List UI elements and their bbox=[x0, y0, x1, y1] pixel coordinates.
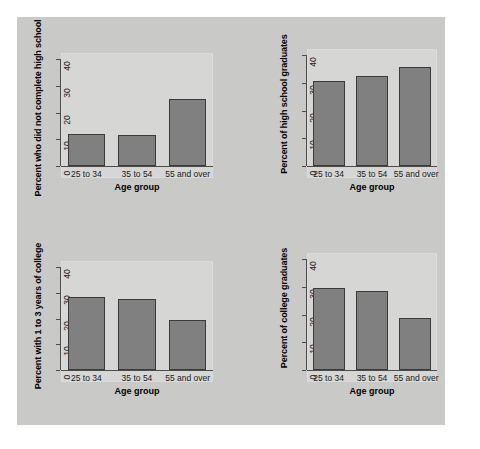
bar bbox=[399, 318, 431, 370]
chart-panel-some-college: Percent with 1 to 3 years of college 010… bbox=[17, 221, 231, 425]
y-axis-tick bbox=[302, 342, 306, 343]
y-axis-line bbox=[306, 55, 307, 166]
chart-panel-no-high-school: Percent who did not complete high school… bbox=[17, 17, 231, 221]
x-axis-tick-label: 55 and over bbox=[394, 373, 437, 383]
x-axis-tick-label: 25 to 34 bbox=[61, 373, 112, 383]
x-axis-title: Age group bbox=[61, 386, 213, 396]
bar bbox=[356, 76, 388, 166]
bar bbox=[68, 297, 105, 370]
x-axis-tick-label: 35 to 54 bbox=[350, 169, 393, 179]
y-axis-tick-label: 40 bbox=[62, 59, 72, 73]
y-axis-tick bbox=[56, 319, 60, 320]
x-axis-tick-label: 55 and over bbox=[394, 169, 437, 179]
y-axis-tick-label: 20 bbox=[62, 113, 72, 127]
y-axis-tick bbox=[302, 166, 306, 167]
bar bbox=[169, 99, 206, 166]
y-axis-tick-label: 30 bbox=[62, 86, 72, 100]
y-axis-tick bbox=[56, 59, 60, 60]
x-axis-tick-label: 35 to 54 bbox=[112, 373, 163, 383]
y-axis-tick bbox=[56, 344, 60, 345]
x-axis-tick-label: 55 and over bbox=[162, 169, 213, 179]
bar bbox=[118, 299, 155, 370]
y-axis-title: Percent of college graduates bbox=[277, 213, 291, 403]
y-axis-tick bbox=[302, 259, 306, 260]
x-axis-line bbox=[61, 166, 213, 167]
x-axis-tick-label: 35 to 54 bbox=[112, 169, 163, 179]
bar bbox=[313, 288, 345, 370]
y-axis-title: Percent of high school graduates bbox=[277, 9, 291, 199]
chart-panel-high-school-graduates: Percent of high school graduates 0102030… bbox=[231, 17, 445, 221]
y-axis-tick bbox=[302, 370, 306, 371]
y-axis-tick bbox=[56, 113, 60, 114]
y-axis-tick bbox=[56, 370, 60, 371]
y-axis-title: Percent who did not complete high school bbox=[31, 13, 45, 203]
x-axis-tick-label: 55 and over bbox=[162, 373, 213, 383]
bar bbox=[68, 134, 105, 166]
bar bbox=[313, 81, 345, 166]
bar bbox=[118, 135, 155, 166]
y-axis-tick bbox=[302, 111, 306, 112]
bar bbox=[399, 67, 431, 166]
x-axis-tick-label: 25 to 34 bbox=[307, 169, 350, 179]
y-axis-tick-label: 40 bbox=[62, 267, 72, 281]
y-axis-title: Percent with 1 to 3 years of college bbox=[31, 221, 45, 411]
y-axis-tick bbox=[56, 86, 60, 87]
y-axis-tick bbox=[302, 83, 306, 84]
x-axis-line bbox=[61, 370, 213, 371]
y-axis-tick bbox=[56, 267, 60, 268]
y-axis-tick-label: 40 bbox=[308, 55, 318, 69]
y-axis-line bbox=[306, 259, 307, 370]
figure-panel: Percent who did not complete high school… bbox=[17, 17, 445, 425]
bar bbox=[356, 291, 388, 370]
x-axis-line bbox=[307, 166, 437, 167]
y-axis-tick-label: 40 bbox=[308, 259, 318, 273]
y-axis-line bbox=[60, 59, 61, 166]
x-axis-title: Age group bbox=[307, 182, 437, 192]
bar bbox=[169, 320, 206, 370]
y-axis-tick bbox=[302, 138, 306, 139]
y-axis-line bbox=[60, 267, 61, 370]
y-axis-tick bbox=[302, 315, 306, 316]
x-axis-tick-label: 25 to 34 bbox=[307, 373, 350, 383]
x-axis-line bbox=[307, 370, 437, 371]
y-axis-tick bbox=[302, 287, 306, 288]
y-axis-tick bbox=[56, 166, 60, 167]
y-axis-tick bbox=[56, 293, 60, 294]
y-axis-tick bbox=[302, 55, 306, 56]
x-axis-title: Age group bbox=[307, 386, 437, 396]
x-axis-tick-label: 25 to 34 bbox=[61, 169, 112, 179]
chart-panel-college-graduates: Percent of college graduates 01020304025… bbox=[231, 221, 445, 425]
y-axis-tick bbox=[56, 139, 60, 140]
x-axis-title: Age group bbox=[61, 182, 213, 192]
x-axis-tick-label: 35 to 54 bbox=[350, 373, 393, 383]
